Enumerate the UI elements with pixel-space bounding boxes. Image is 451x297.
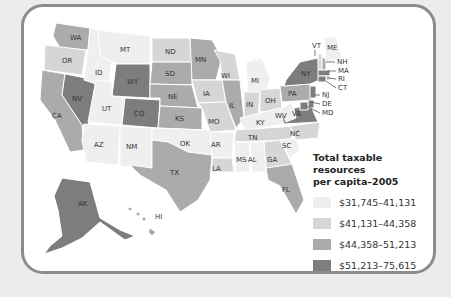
svg-text:NM: NM	[126, 143, 137, 151]
svg-text:MA: MA	[338, 67, 349, 75]
legend-item: $41,131–44,358	[313, 213, 433, 234]
svg-text:KY: KY	[256, 119, 265, 127]
legend-swatch	[313, 197, 331, 208]
svg-text:GA: GA	[267, 156, 277, 164]
svg-text:TN: TN	[247, 134, 258, 142]
svg-text:NJ: NJ	[322, 91, 329, 99]
svg-text:IN: IN	[246, 101, 253, 109]
svg-text:MS: MS	[236, 156, 247, 164]
legend-item: $51,213–75,615	[313, 255, 433, 276]
svg-text:NV: NV	[72, 95, 82, 103]
svg-text:UT: UT	[102, 105, 112, 113]
svg-text:MI: MI	[251, 77, 259, 85]
svg-text:OK: OK	[180, 140, 191, 148]
svg-text:AL: AL	[248, 156, 257, 164]
svg-text:NY: NY	[301, 70, 311, 78]
svg-text:IA: IA	[203, 90, 210, 98]
svg-text:HI: HI	[155, 213, 162, 221]
svg-text:VA: VA	[292, 110, 301, 118]
svg-text:CT: CT	[338, 84, 348, 92]
svg-text:CO: CO	[134, 110, 145, 118]
svg-text:AR: AR	[211, 141, 221, 149]
svg-text:CA: CA	[52, 112, 62, 120]
svg-text:OR: OR	[62, 57, 73, 65]
svg-text:DE: DE	[322, 100, 332, 108]
svg-text:MN: MN	[195, 56, 206, 64]
svg-text:NH: NH	[337, 58, 348, 66]
svg-text:ME: ME	[327, 44, 337, 52]
svg-text:MD: MD	[322, 109, 333, 117]
svg-text:WV: WV	[275, 112, 287, 120]
svg-text:ID: ID	[95, 69, 102, 77]
legend-swatch	[313, 218, 331, 229]
legend-item: $31,745–41,131	[313, 192, 433, 213]
legend-title: Total taxable resources per capita–2005	[313, 152, 433, 188]
svg-text:NC: NC	[290, 130, 300, 138]
svg-text:WA: WA	[70, 34, 82, 42]
svg-text:MT: MT	[120, 46, 131, 54]
svg-text:MO: MO	[208, 118, 220, 126]
svg-text:ND: ND	[165, 48, 176, 56]
svg-text:NE: NE	[168, 93, 178, 101]
legend-item: $44,358–51,213	[313, 234, 433, 255]
svg-text:KS: KS	[175, 115, 185, 123]
svg-text:SD: SD	[165, 70, 175, 78]
legend-swatch	[313, 239, 331, 250]
svg-text:IL: IL	[229, 102, 235, 110]
svg-text:AZ: AZ	[94, 141, 104, 149]
svg-text:OH: OH	[265, 97, 276, 105]
svg-text:RI: RI	[338, 75, 345, 83]
svg-text:LA: LA	[212, 165, 221, 173]
legend: Total taxable resources per capita–2005 …	[313, 152, 433, 276]
svg-text:PA: PA	[288, 90, 297, 98]
svg-text:WY: WY	[127, 78, 139, 86]
svg-text:TX: TX	[169, 169, 179, 177]
svg-text:VT: VT	[312, 42, 322, 50]
svg-text:WI: WI	[221, 72, 230, 80]
svg-text:SC: SC	[282, 142, 291, 150]
svg-text:AK: AK	[78, 200, 88, 208]
svg-text:FL: FL	[282, 186, 290, 194]
legend-swatch	[313, 260, 331, 271]
